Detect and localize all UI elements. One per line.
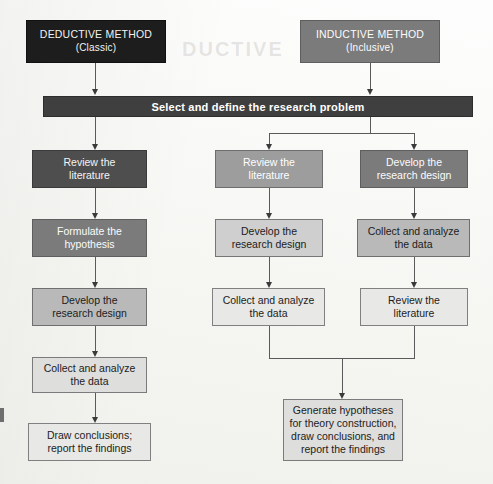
connector-right-2-3 [414, 257, 415, 283]
node-deductive-2[interactable]: Formulate the hypothesis [32, 219, 147, 257]
node-deductive-5[interactable]: Draw conclusions; report the findings [28, 423, 151, 461]
node-inductive-right-2-label: Collect and analyze the data [362, 225, 465, 251]
arrowhead-inductive-to-bar [367, 89, 373, 95]
node-deductive-1[interactable]: Review the literature [32, 150, 147, 188]
ghost-bleedthrough-text: DUCTIVE [182, 38, 284, 61]
node-inductive-right-1[interactable]: Develop the research design [360, 150, 468, 188]
connector-deductive-to-bar [95, 63, 96, 90]
node-inductive-middle-3[interactable]: Collect and analyze the data [212, 288, 325, 326]
flowchart-diagram: DUCTIVE DEDUCTIVE METHOD (Classic) INDUC… [0, 0, 493, 484]
header-inductive-title: INDUCTIVE METHOD [316, 28, 424, 40]
node-inductive-right-1-label: Develop the research design [365, 156, 463, 182]
node-inductive-middle-1[interactable]: Review the literature [215, 150, 323, 188]
connector-middle-1-2 [269, 188, 270, 214]
connector-split-horizontal [269, 133, 415, 134]
node-inductive-middle-2[interactable]: Develop the research design [215, 219, 323, 257]
node-inductive-middle-2-label: Develop the research design [220, 225, 318, 251]
node-deductive-4-label: Collect and analyze the data [37, 362, 142, 388]
node-deductive-1-label: Review the literature [37, 156, 142, 182]
node-deductive-3[interactable]: Develop the research design [32, 288, 147, 326]
node-deductive-5-label: Draw conclusions; report the findings [33, 429, 146, 455]
node-final-label: Generate hypotheses for theory construct… [288, 404, 398, 457]
connector-bar-to-left-1 [95, 117, 96, 145]
connector-middle-2-3 [269, 257, 270, 283]
page-edge-mark [0, 408, 4, 422]
header-deductive-title: DEDUCTIVE METHOD [40, 28, 152, 40]
connector-left-3-4 [95, 326, 96, 352]
node-inductive-middle-3-label: Collect and analyze the data [217, 294, 320, 320]
header-deductive-subtitle: (Classic) [76, 42, 117, 53]
node-deductive-4[interactable]: Collect and analyze the data [32, 357, 147, 393]
connector-right-to-merge [414, 326, 415, 359]
node-inductive-middle-1-label: Review the literature [220, 156, 318, 182]
connector-middle-to-merge [269, 326, 270, 359]
node-inductive-right-3[interactable]: Review the literature [360, 288, 468, 326]
connector-bar-to-split [370, 117, 371, 134]
node-deductive-3-label: Develop the research design [37, 294, 142, 320]
header-inductive-subtitle: (Inclusive) [346, 42, 394, 53]
connector-merge-to-final [342, 358, 343, 394]
node-deductive-2-label: Formulate the hypothesis [37, 225, 142, 251]
header-deductive-method[interactable]: DEDUCTIVE METHOD (Classic) [26, 20, 166, 63]
connector-left-4-5 [95, 393, 96, 418]
shared-step-bar[interactable]: Select and define the research problem [43, 96, 473, 117]
node-final-generate-hypotheses[interactable]: Generate hypotheses for theory construct… [283, 399, 403, 461]
node-inductive-right-3-label: Review the literature [365, 294, 463, 320]
node-inductive-right-2[interactable]: Collect and analyze the data [357, 219, 470, 257]
connector-inductive-to-bar [370, 63, 371, 90]
connector-left-1-2 [95, 188, 96, 214]
connector-right-1-2 [414, 188, 415, 214]
connector-left-2-3 [95, 257, 96, 283]
header-inductive-method[interactable]: INDUCTIVE METHOD (Inclusive) [300, 20, 440, 63]
arrowhead-deductive-to-bar [92, 89, 98, 95]
